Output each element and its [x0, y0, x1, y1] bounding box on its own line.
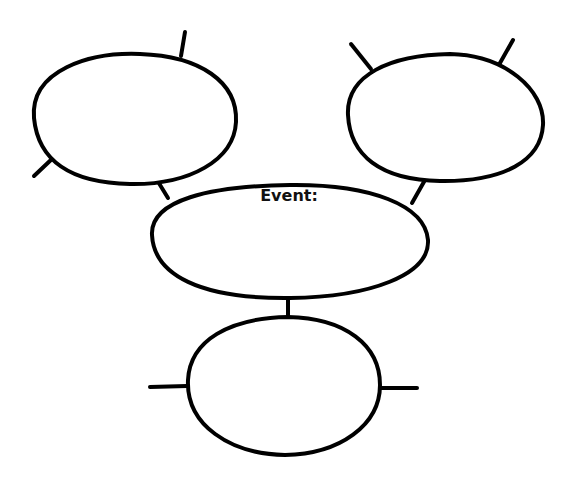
- ellipse-top-right[interactable]: [348, 54, 543, 181]
- node-bottom[interactable]: [150, 317, 417, 455]
- spoke-top-left-lower: [34, 158, 53, 176]
- spoke-top-right-right: [500, 40, 513, 63]
- ellipse-top-left[interactable]: [34, 54, 236, 184]
- node-top-left[interactable]: [34, 32, 236, 184]
- event-label: Event:: [260, 186, 318, 205]
- node-top-right[interactable]: [348, 40, 543, 181]
- spoke-top-left-upper: [181, 32, 185, 56]
- spoke-top-right-left: [351, 44, 371, 69]
- spoke-bottom-left: [150, 386, 187, 387]
- event-web-diagram: Event:: [0, 0, 568, 479]
- node-center-event[interactable]: Event:: [152, 185, 428, 298]
- ellipse-bottom[interactable]: [188, 317, 380, 455]
- connector-top-right: [412, 180, 425, 203]
